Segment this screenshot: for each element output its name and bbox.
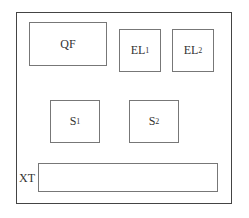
block-s2: S2 xyxy=(129,100,179,143)
block-s1-label: S xyxy=(70,114,77,129)
block-el2: EL2 xyxy=(172,29,214,72)
block-s2-label: S xyxy=(149,114,156,129)
block-el2-label: EL xyxy=(184,43,199,58)
block-s1-subscript: 1 xyxy=(76,117,80,126)
block-s2-subscript: 2 xyxy=(155,117,159,126)
terminal-strip xyxy=(38,163,218,192)
block-el1-subscript: 1 xyxy=(145,46,149,55)
block-el1: EL1 xyxy=(119,29,161,72)
block-qf-label: QF xyxy=(60,37,75,52)
block-el2-subscript: 2 xyxy=(198,46,202,55)
terminal-label: XT xyxy=(19,171,35,186)
block-qf: QF xyxy=(29,22,107,66)
block-s1: S1 xyxy=(50,100,100,143)
block-el1-label: EL xyxy=(131,43,146,58)
